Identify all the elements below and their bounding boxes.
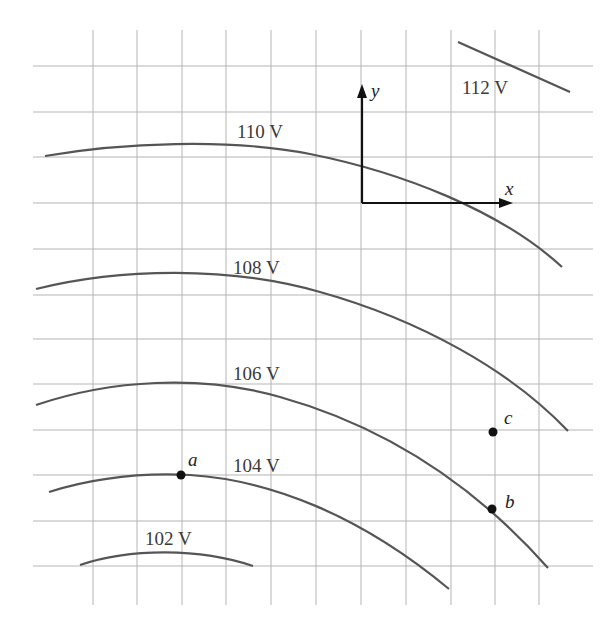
- equipotential-line: [36, 273, 568, 431]
- point-c-label: c: [504, 407, 513, 428]
- point-c-marker: [489, 428, 498, 437]
- equipotential-line: [49, 474, 449, 589]
- y-axis-arrowhead-icon: [357, 84, 367, 98]
- labeled-points: abc: [177, 407, 515, 514]
- equipotential-line: [80, 552, 253, 566]
- equipotential-diagram: 112 V110 V108 V106 V104 V102 V x y abc: [0, 0, 611, 633]
- point-b-marker: [488, 505, 497, 514]
- x-axis-label: x: [504, 178, 514, 199]
- x-axis-arrowhead-icon: [499, 198, 513, 208]
- voltage-label: 102 V: [145, 528, 192, 549]
- point-b-label: b: [505, 491, 515, 512]
- point-a-marker: [177, 471, 186, 480]
- voltage-label: 106 V: [233, 363, 280, 384]
- voltage-label: 108 V: [233, 257, 280, 278]
- voltage-label: 110 V: [237, 121, 283, 142]
- point-a-label: a: [188, 449, 198, 470]
- y-axis-label: y: [369, 80, 380, 101]
- voltage-label: 104 V: [233, 455, 280, 476]
- grid: [33, 30, 593, 605]
- coordinate-axes: x y: [357, 80, 514, 208]
- voltage-label: 112 V: [462, 77, 508, 98]
